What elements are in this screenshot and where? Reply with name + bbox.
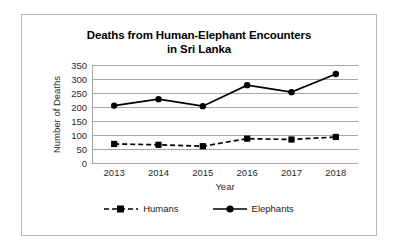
y-tick-label-250: 250 bbox=[71, 88, 87, 99]
legend-swatch-elephants-solid-circle-icon bbox=[213, 204, 247, 214]
series-line-elephants bbox=[114, 74, 336, 106]
plot-area: 050100150200250300350 201320142015201620… bbox=[92, 65, 358, 163]
data-point-elephants-2015[interactable] bbox=[200, 103, 206, 109]
x-tick-label-2017: 2017 bbox=[281, 167, 302, 178]
x-tick-label-2016: 2016 bbox=[237, 167, 258, 178]
x-axis-label: Year bbox=[92, 181, 358, 192]
x-tick-label-2015: 2015 bbox=[192, 167, 213, 178]
x-tick-label-2018: 2018 bbox=[325, 167, 346, 178]
data-point-elephants-2016[interactable] bbox=[244, 82, 250, 88]
chart-frame: Deaths from Human-Elephant Encounters in… bbox=[21, 14, 377, 236]
legend-label-humans: Humans bbox=[143, 203, 178, 214]
legend-item-humans[interactable]: Humans bbox=[104, 203, 178, 214]
data-point-elephants-2018[interactable] bbox=[333, 71, 339, 77]
data-point-elephants-2017[interactable] bbox=[288, 89, 294, 95]
y-tick-label-50: 50 bbox=[76, 144, 87, 155]
legend-item-elephants[interactable]: Elephants bbox=[213, 203, 294, 214]
legend-label-elephants: Elephants bbox=[252, 203, 294, 214]
gridline-0 bbox=[92, 163, 358, 164]
y-tick-label-0: 0 bbox=[82, 158, 87, 169]
plot-wrapper: 050100150200250300350 201320142015201620… bbox=[22, 15, 376, 235]
data-point-humans-2015[interactable] bbox=[200, 143, 206, 149]
series-plot bbox=[92, 65, 358, 163]
y-tick-label-300: 300 bbox=[71, 74, 87, 85]
data-point-humans-2018[interactable] bbox=[333, 134, 339, 140]
x-axis-label-text: Year bbox=[215, 181, 234, 192]
data-point-humans-2016[interactable] bbox=[244, 136, 250, 142]
series-line-humans bbox=[114, 137, 336, 146]
y-tick-label-100: 100 bbox=[71, 130, 87, 141]
data-point-humans-2014[interactable] bbox=[155, 142, 161, 148]
y-tick-label-200: 200 bbox=[71, 102, 87, 113]
data-point-elephants-2014[interactable] bbox=[155, 96, 161, 102]
chart-legend: Humans Elephants bbox=[22, 203, 376, 214]
y-tick-label-150: 150 bbox=[71, 116, 87, 127]
x-tick-label-2014: 2014 bbox=[148, 167, 169, 178]
data-point-elephants-2013[interactable] bbox=[111, 102, 117, 108]
x-tick-label-2013: 2013 bbox=[104, 167, 125, 178]
data-point-humans-2013[interactable] bbox=[111, 141, 117, 147]
data-point-humans-2017[interactable] bbox=[288, 136, 294, 142]
y-tick-label-350: 350 bbox=[71, 60, 87, 71]
legend-swatch-humans-dashed-square-icon bbox=[104, 204, 138, 214]
